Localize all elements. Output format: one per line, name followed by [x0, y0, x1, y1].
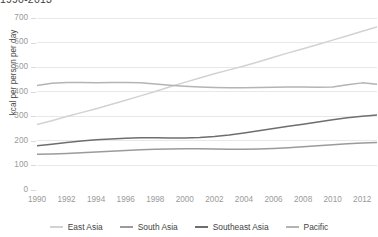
- y-axis-tick-mark: [31, 18, 36, 19]
- y-axis-tick-600: 600: [2, 37, 28, 46]
- y-axis-tick-400: 400: [2, 87, 28, 96]
- y-axis-tick-mark: [31, 141, 36, 142]
- legend-item-east-asia[interactable]: East Asia: [50, 222, 103, 232]
- legend-line-icon: [195, 226, 208, 228]
- y-axis-tick-mark: [31, 92, 36, 93]
- y-axis-tick-500: 500: [2, 62, 28, 71]
- y-axis-tick-0: 0: [2, 185, 28, 194]
- y-axis-tick-mark: [31, 190, 36, 191]
- chart-legend: East AsiaSouth AsiaSoutheast AsiaPacific: [0, 219, 378, 235]
- legend-item-label: Pacific: [304, 222, 329, 232]
- y-axis-tick-mark: [31, 67, 36, 68]
- legend-line-icon: [286, 226, 299, 228]
- legend-item-label: Southeast Asia: [213, 222, 269, 232]
- chart-container: 1990-2013 kcal per person per day 010020…: [0, 0, 378, 237]
- plot-area: [37, 18, 377, 190]
- y-axis-title: kcal per person per day: [9, 3, 18, 143]
- legend-item-southeast-asia[interactable]: Southeast Asia: [195, 222, 269, 232]
- line-chart-svg: [37, 18, 377, 190]
- y-axis-tick-mark: [31, 116, 36, 117]
- legend-line-icon: [50, 226, 63, 228]
- y-axis-tick-700: 700: [2, 13, 28, 22]
- legend-item-south-asia[interactable]: South Asia: [120, 222, 178, 232]
- y-axis-tick-200: 200: [2, 136, 28, 145]
- y-axis-tick-100: 100: [2, 160, 28, 169]
- y-axis-tick-300: 300: [2, 111, 28, 120]
- legend-item-pacific[interactable]: Pacific: [286, 222, 329, 232]
- legend-item-label: South Asia: [138, 222, 178, 232]
- legend-item-label: East Asia: [68, 222, 103, 232]
- x-axis-tick-2012: 2012: [345, 195, 378, 204]
- y-axis-tick-mark: [31, 43, 36, 44]
- y-axis-tick-mark: [31, 165, 36, 166]
- legend-line-icon: [120, 226, 133, 228]
